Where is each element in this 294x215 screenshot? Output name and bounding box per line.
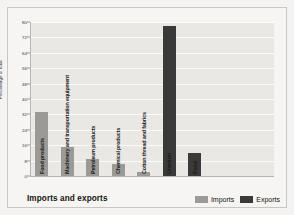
y-tick-mark [27, 22, 30, 23]
y-tick-label: 8 [12, 158, 27, 163]
y-tick-label: 56 [12, 66, 27, 71]
legend-item[interactable]: Exports [240, 196, 280, 203]
bar-category-label: Food products [39, 138, 45, 174]
y-tick-label: 40 [12, 97, 27, 102]
chart-title: Imports and exports [27, 194, 108, 203]
y-axis-ticks: 08162432404856647280 [0, 0, 294, 215]
y-tick-mark [27, 37, 30, 38]
y-tick-mark [27, 176, 30, 177]
y-tick-label: 72 [12, 35, 27, 40]
y-tick-mark [27, 52, 30, 53]
y-tick-mark [27, 160, 30, 161]
chart-figure: 08162432404856647280 Percentage of total… [0, 0, 294, 215]
bar-category-label: Food [192, 161, 198, 174]
y-tick-label: 24 [12, 127, 27, 132]
y-tick-label: 64 [12, 50, 27, 55]
y-tick-label: 48 [12, 81, 27, 86]
legend-label: Imports [211, 196, 234, 203]
y-tick-mark [27, 129, 30, 130]
bar-category-label: Uranium [166, 153, 172, 174]
y-tick-mark [27, 145, 30, 146]
bar-category-label: Petroleum products [90, 126, 96, 174]
y-axis-label: Percentage of total [0, 0, 3, 99]
legend-item[interactable]: Imports [195, 196, 234, 203]
y-tick-label: 80 [12, 20, 27, 25]
y-tick-mark [27, 99, 30, 100]
legend-label: Exports [256, 196, 280, 203]
legend-swatch-icon [195, 196, 208, 203]
y-tick-mark [27, 68, 30, 69]
bar-category-label: Chemical products [115, 128, 121, 174]
y-tick-label: 32 [12, 112, 27, 117]
chart-legend: ImportsExports [195, 196, 280, 203]
y-tick-mark [27, 83, 30, 84]
bar-category-label: Cotton thread and fabrics [141, 112, 147, 174]
y-tick-label: 0 [12, 174, 27, 179]
y-tick-label: 16 [12, 143, 27, 148]
y-tick-mark [27, 114, 30, 115]
legend-swatch-icon [240, 196, 253, 203]
bar-category-label: Machinery and transportation equipment [64, 75, 70, 174]
